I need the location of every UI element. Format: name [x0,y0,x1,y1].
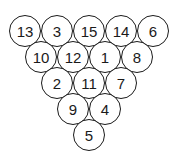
ball-5: 5 [73,119,105,151]
